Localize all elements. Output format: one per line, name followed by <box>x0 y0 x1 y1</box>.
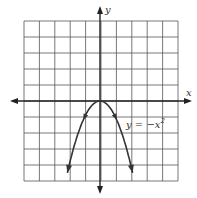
y-axis <box>97 6 103 194</box>
y-axis-down-arrow-icon <box>97 186 103 194</box>
x-axis-left-arrow-icon <box>10 98 18 104</box>
x-axis-label: x <box>186 87 192 98</box>
y-axis-label: y <box>104 4 111 15</box>
x-axis-right-arrow-icon <box>184 98 192 104</box>
curve-label: y = −x2 <box>125 117 165 130</box>
y-axis-up-arrow-icon <box>97 6 103 14</box>
graph: y x y = −x2 <box>0 0 197 198</box>
